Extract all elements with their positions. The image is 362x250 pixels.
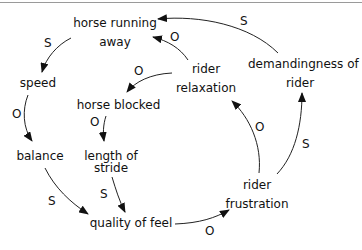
node-speed: speed [18, 74, 58, 93]
polarity-label-blocked-stride: O [90, 113, 99, 132]
edge-quality-to-frustration [175, 210, 229, 224]
diagram-arrows [0, 0, 362, 250]
polarity-label-running-speed: S [44, 34, 52, 53]
node-quality-of-feel: quality of feel [88, 214, 174, 233]
node-length-of-stride: length of stride [82, 150, 140, 174]
node-horse-running-away: horse running away [70, 14, 160, 52]
edge-frustration-to-relaxation [232, 101, 259, 173]
polarity-label-balance-quality: S [48, 192, 56, 211]
node-horse-blocked: horse blocked [76, 96, 161, 115]
node-balance: balance [16, 147, 64, 166]
polarity-label-stride-quality: S [100, 185, 108, 204]
polarity-label-frustration-relaxation: O [255, 118, 264, 137]
polarity-label-demandingness-running: S [240, 12, 248, 31]
node-rider-frustration: rider frustration [224, 176, 290, 214]
polarity-label-quality-frustration: O [205, 222, 214, 241]
polarity-label-frustration-demandingness: S [302, 135, 310, 154]
edge-speed-to-balance [24, 95, 32, 141]
polarity-label-relaxation-running: O [170, 28, 179, 47]
edge-stride-to-quality [112, 177, 125, 212]
node-demandingness-of-rider: demandingness of rider [248, 55, 352, 93]
edge-frustration-to-demandingness [277, 93, 302, 174]
polarity-label-relaxation-blocked: O [134, 62, 143, 81]
edge-blocked-to-stride [103, 116, 106, 141]
polarity-label-speed-balance: O [12, 105, 21, 124]
node-rider-relaxation: rider relaxation [172, 60, 240, 98]
